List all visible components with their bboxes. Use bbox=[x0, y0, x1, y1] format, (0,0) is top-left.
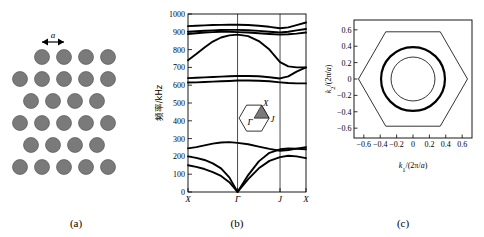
lattice-circle bbox=[68, 94, 83, 109]
arrow-head-right bbox=[58, 39, 64, 46]
lattice-circle bbox=[90, 94, 105, 109]
equifrequency-inner-circle bbox=[391, 57, 435, 101]
lattice-circle bbox=[35, 50, 50, 65]
contour-x-axis-ticks: −0.6−0.4−0.200.20.40.6 bbox=[357, 135, 468, 150]
band-curve bbox=[188, 67, 306, 78]
panel-c-label: (c) bbox=[322, 217, 484, 229]
x-tick-label: 0.4 bbox=[441, 140, 451, 149]
equifrequency-contour-plot: −0.6−0.4−0.200.20.40.6 −0.6−0.4−0.200.20… bbox=[322, 0, 484, 237]
y-tick-label: 200 bbox=[173, 152, 185, 161]
x-tick-label: 0.2 bbox=[424, 140, 434, 149]
panel-a-label: (a) bbox=[0, 217, 152, 229]
x-tick-label: 0 bbox=[411, 140, 415, 149]
lattice-circle bbox=[57, 116, 72, 131]
lattice-circle bbox=[101, 72, 116, 87]
x-tick-label: Γ bbox=[234, 194, 241, 204]
y-tick-label: −0.4 bbox=[337, 108, 352, 117]
y-tick-label: 100 bbox=[173, 170, 185, 179]
lattice-circle bbox=[35, 72, 50, 87]
x-tick-label: J bbox=[278, 194, 283, 204]
lattice-circle bbox=[79, 116, 94, 131]
lattice-circle bbox=[13, 72, 28, 87]
band-structure-plot: 01002003004005006007008009001000 XΓJX Γ … bbox=[152, 0, 322, 237]
y-tick-label: 900 bbox=[173, 28, 185, 37]
lattice-circle bbox=[90, 138, 105, 153]
lattice-circle-group bbox=[13, 50, 116, 175]
y-tick-label: 700 bbox=[173, 63, 185, 72]
lattice-circle bbox=[101, 160, 116, 175]
lattice-circle bbox=[46, 138, 61, 153]
x-tick-label: −0.4 bbox=[373, 140, 388, 149]
lattice-circle bbox=[46, 94, 61, 109]
lattice-circle bbox=[57, 160, 72, 175]
lattice-circle bbox=[79, 160, 94, 175]
lattice-circle bbox=[101, 50, 116, 65]
lattice-circle bbox=[35, 116, 50, 131]
band-plot-frame bbox=[188, 14, 306, 192]
contour-x-axis-label: k1/(2π/a) bbox=[399, 161, 428, 173]
y-tick-label: −0.6 bbox=[337, 124, 352, 133]
band-curve bbox=[188, 81, 306, 84]
band-y-axis-ticks: 01002003004005006007008009001000 bbox=[169, 10, 192, 197]
x-tick-label: 0.6 bbox=[457, 140, 467, 149]
panel-c-equifrequency-contours: −0.6−0.4−0.200.20.40.6 −0.6−0.4−0.200.20… bbox=[322, 0, 484, 237]
bz-point-j: J bbox=[271, 114, 276, 124]
x-tick-label: X bbox=[184, 194, 191, 204]
bz-point-gamma: Γ bbox=[246, 117, 253, 127]
band-curve bbox=[188, 23, 306, 29]
brillouin-zone-inset: Γ X J bbox=[239, 98, 276, 131]
lattice-circle bbox=[24, 94, 39, 109]
y-tick-label: 0.2 bbox=[342, 59, 352, 68]
lattice-circle bbox=[68, 138, 83, 153]
y-tick-label: 0.4 bbox=[342, 42, 352, 51]
figure-container: a (a) 01002003004005006007008009001000 X… bbox=[0, 0, 484, 237]
band-curve bbox=[188, 142, 306, 151]
y-tick-label: 0 bbox=[348, 75, 352, 84]
y-tick-label: 500 bbox=[173, 99, 185, 108]
lattice-circle bbox=[79, 50, 94, 65]
lattice-circle bbox=[101, 116, 116, 131]
x-tick-label: X bbox=[302, 194, 309, 204]
band-y-axis-label: 频率/kHz bbox=[154, 84, 164, 121]
equifrequency-outer-circle bbox=[381, 47, 445, 111]
y-tick-label: 400 bbox=[173, 117, 185, 126]
x-tick-label: −0.6 bbox=[357, 140, 372, 149]
y-tick-label: 1000 bbox=[169, 10, 185, 19]
y-tick-label: 600 bbox=[173, 81, 185, 90]
y-tick-label: −0.2 bbox=[337, 91, 352, 100]
contour-y-axis-label: k2/(2π/a) bbox=[324, 64, 336, 93]
x-tick-label: −0.2 bbox=[389, 140, 404, 149]
lattice-circle bbox=[35, 160, 50, 175]
panel-a-lattice: a (a) bbox=[0, 0, 152, 237]
lattice-circle bbox=[24, 138, 39, 153]
lattice-circle bbox=[79, 72, 94, 87]
lattice-diagram: a bbox=[0, 0, 152, 237]
band-curve bbox=[188, 35, 306, 68]
y-tick-label: 800 bbox=[173, 46, 185, 55]
y-tick-label: 300 bbox=[173, 135, 185, 144]
lattice-circle bbox=[13, 116, 28, 131]
lattice-circle bbox=[57, 72, 72, 87]
arrow-head-left bbox=[42, 39, 48, 46]
panel-b-band-structure: 01002003004005006007008009001000 XΓJX Γ … bbox=[152, 0, 322, 237]
contour-plot-frame bbox=[354, 20, 472, 138]
lattice-circle bbox=[13, 160, 28, 175]
lattice-circle bbox=[57, 50, 72, 65]
y-tick-label: 0.6 bbox=[342, 26, 352, 35]
panel-b-label: (b) bbox=[152, 217, 322, 229]
lattice-constant-label: a bbox=[51, 30, 56, 40]
band-x-axis-ticks: XΓJX bbox=[184, 188, 309, 204]
bz-point-x: X bbox=[262, 98, 269, 108]
